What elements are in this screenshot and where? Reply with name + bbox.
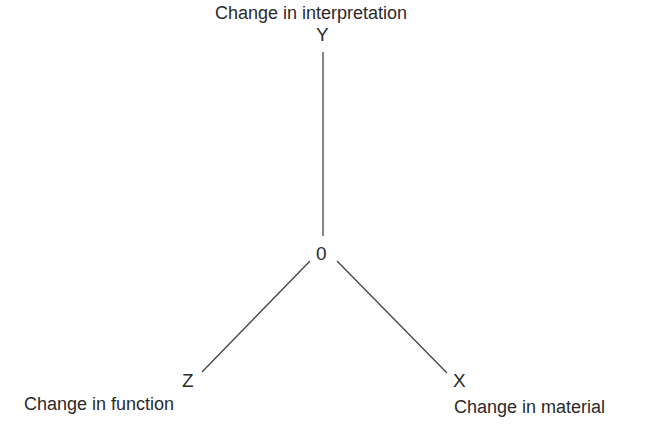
origin-label: 0 [316,244,327,264]
x-axis-letter: X [453,371,466,391]
x-axis-description: Change in material [454,397,605,417]
y-axis-description: Change in interpretation [215,3,407,23]
z-axis-letter: Z [182,371,194,391]
z-axis-line [202,261,310,372]
z-axis-description: Change in function [24,394,174,414]
axes-lines [0,0,657,436]
y-axis-letter: Y [316,25,329,45]
x-axis-line [337,261,447,373]
